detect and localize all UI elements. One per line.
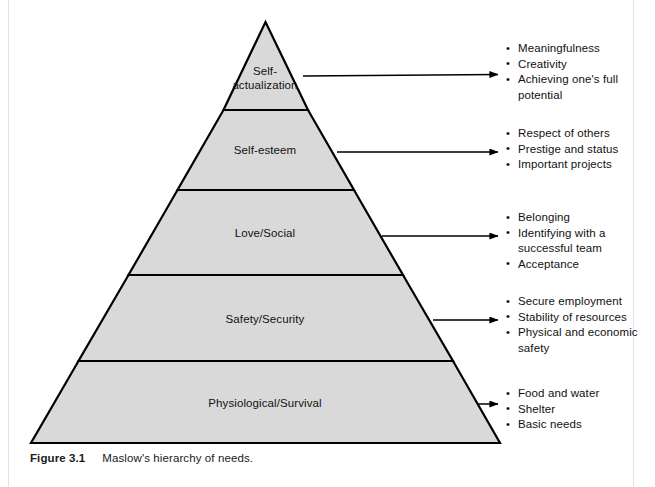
list-item: Acceptance: [505, 257, 645, 273]
pyramid-tier-2-label: Self-esteem: [205, 143, 325, 157]
pyramid-tier-1-label: Self- actualization: [205, 64, 325, 92]
needs-list-tier-3: Belonging Identifying with a successful …: [505, 210, 645, 272]
needs-list-tier-1: Meaningfulness Creativity Achieving one'…: [505, 41, 645, 103]
list-item: Stability of resources: [505, 310, 645, 326]
list-item: Meaningfulness: [505, 41, 645, 57]
list-item: Secure employment: [505, 294, 645, 310]
pyramid-tier-4-label: Safety/Security: [195, 312, 335, 326]
needs-list-tier-2: Respect of others Prestige and status Im…: [505, 126, 645, 173]
figure-caption-text: Maslow's hierarchy of needs.: [102, 452, 253, 464]
list-item: Belonging: [505, 210, 645, 226]
pyramid-tier-5-label: Physiological/Survival: [175, 396, 355, 410]
list-item: Shelter: [505, 402, 645, 418]
connector-arrow-tier-1: [303, 75, 498, 77]
list-item: Prestige and status: [505, 142, 645, 158]
figure-number: Figure 3.1: [30, 452, 85, 464]
pyramid-tier-3-label: Love/Social: [205, 226, 325, 240]
figure-page: Self- actualization Self-esteem Love/Soc…: [0, 0, 655, 487]
list-item: Achieving one's full potential: [505, 72, 645, 103]
needs-list-tier-5: Food and water Shelter Basic needs: [505, 386, 645, 433]
list-item: Respect of others: [505, 126, 645, 142]
list-item: Creativity: [505, 57, 645, 73]
figure-caption: Figure 3.1Maslow's hierarchy of needs.: [30, 452, 253, 464]
list-item: Basic needs: [505, 417, 645, 433]
list-item: Important projects: [505, 157, 645, 173]
list-item: Food and water: [505, 386, 645, 402]
list-item: Identifying with a successful team: [505, 226, 645, 257]
needs-list-tier-4: Secure employment Stability of resources…: [505, 294, 645, 356]
list-item: Physical and economic safety: [505, 325, 645, 356]
